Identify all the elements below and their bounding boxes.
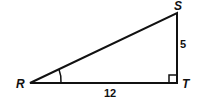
triangle-rst bbox=[30, 13, 177, 83]
side-label-rt: 12 bbox=[104, 87, 116, 99]
side-label-st: 5 bbox=[180, 38, 186, 50]
angle-arc-r bbox=[59, 70, 61, 84]
vertex-label-r: R bbox=[16, 77, 25, 91]
vertex-label-t: T bbox=[182, 77, 191, 91]
triangle-diagram: S T R 5 12 bbox=[0, 0, 199, 102]
vertex-label-s: S bbox=[174, 0, 182, 13]
right-angle-marker bbox=[169, 75, 177, 83]
